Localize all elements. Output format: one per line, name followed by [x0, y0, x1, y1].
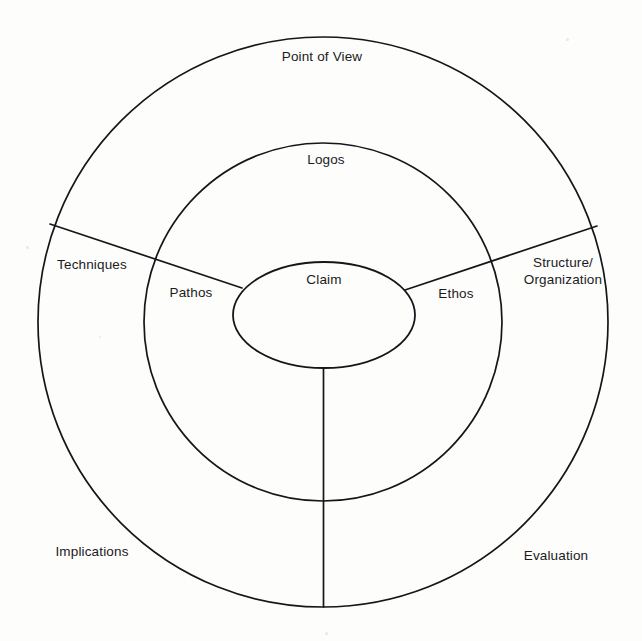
label-ethos: Ethos — [438, 286, 473, 303]
diagram-canvas: Point of View Techniques Structure/ Orga… — [0, 0, 642, 641]
label-structure-line1: Structure/ — [533, 255, 593, 270]
label-structure-organization: Structure/ Organization — [508, 255, 618, 289]
label-claim: Claim — [306, 272, 341, 289]
label-structure-line2: Organization — [524, 272, 602, 287]
label-logos: Logos — [307, 152, 345, 169]
label-techniques: Techniques — [57, 257, 127, 274]
label-implications: Implications — [55, 544, 128, 561]
label-point-of-view: Point of View — [282, 49, 363, 66]
label-pathos: Pathos — [170, 285, 213, 302]
label-evaluation: Evaluation — [524, 548, 589, 565]
